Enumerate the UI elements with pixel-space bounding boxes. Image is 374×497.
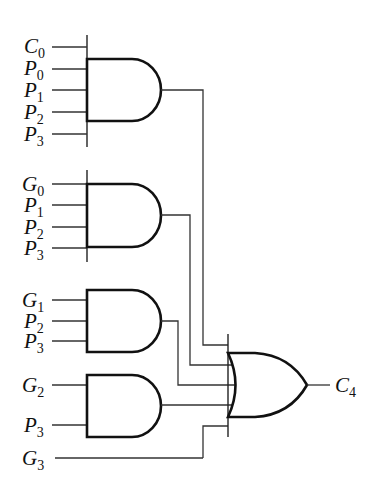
and-gate-4: G2 P3 (22, 373, 161, 440)
and-gate-body (87, 184, 161, 247)
interconnect-wires (161, 90, 235, 458)
wire-g3-to-or (203, 426, 228, 458)
or-gate: C4 (228, 353, 356, 417)
and-gate-2: G0 P1 P2 P3 (22, 170, 161, 263)
and-gate-body (87, 59, 161, 121)
or-gate-body (228, 353, 307, 417)
input-label-p3: P3 (23, 413, 44, 440)
and-gate-body (87, 375, 161, 437)
output-label-c4: C4 (335, 373, 356, 400)
and-gate-3: G1 P2 P3 (22, 288, 161, 356)
wire-and2-to-or (161, 215, 233, 365)
wire-and1-to-or (161, 90, 228, 345)
and-gate-1: C0 P0 P1 P2 P3 (23, 34, 161, 149)
input-label-g3: G3 (22, 446, 44, 473)
logic-circuit-diagram: C0 P0 P1 P2 P3 G0 P1 P2 P3 G1 P2 P3 G2 P… (0, 0, 374, 497)
and-gate-body (87, 290, 161, 352)
direct-input-g3: G3 (22, 446, 203, 473)
wire-and3-to-or (161, 321, 235, 385)
input-label-g2: G2 (22, 373, 44, 400)
